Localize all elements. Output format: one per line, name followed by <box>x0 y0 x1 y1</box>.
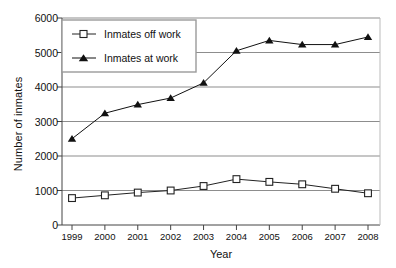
x-axis-tick-label: 2000 <box>94 231 115 242</box>
x-axis-tick-label: 2002 <box>160 231 181 242</box>
data-point <box>232 47 240 54</box>
x-axis-tick-label: 2006 <box>292 231 313 242</box>
x-axis-tick-label: 2007 <box>325 231 346 242</box>
x-axis-ticks <box>72 225 368 230</box>
y-axis-tick-label: 3000 <box>24 116 58 128</box>
y-axis-tick-label: 1000 <box>24 185 58 197</box>
data-point <box>266 178 273 185</box>
x-axis-tick-label: 2004 <box>226 231 247 242</box>
y-axis-tick-label: 0 <box>24 219 58 231</box>
data-point <box>365 190 372 197</box>
x-axis-tick-label: 2005 <box>259 231 280 242</box>
y-axis-label: Number of inmates <box>12 54 24 194</box>
x-axis-tick-label: 2001 <box>127 231 148 242</box>
y-axis-tick-label: 4000 <box>24 81 58 93</box>
data-point <box>265 37 273 44</box>
data-point <box>101 192 108 199</box>
chart-canvas: Inmates off work Inmates at work <box>0 0 396 268</box>
legend-label-0: Inmates off work <box>104 28 182 40</box>
y-axis-tick-label: 2000 <box>24 150 58 162</box>
y-axis-tick-label: 6000 <box>24 12 58 24</box>
data-point <box>69 195 76 202</box>
legend-label-1: Inmates at work <box>104 52 179 64</box>
y-axis-tick-label: 5000 <box>24 47 58 59</box>
x-axis-tick-label: 2008 <box>357 231 378 242</box>
data-point <box>233 176 240 183</box>
data-point <box>134 189 141 196</box>
data-point <box>200 183 207 190</box>
y-axis-tick-labels: 0100020003000400050006000 <box>18 0 58 268</box>
x-axis-tick-label: 2003 <box>193 231 214 242</box>
data-point <box>332 185 339 192</box>
data-point <box>299 181 306 188</box>
x-axis-tick-label: 1999 <box>61 231 82 242</box>
data-point <box>364 33 372 40</box>
line-chart: 0100020003000400050006000 Number of inma… <box>0 0 396 268</box>
series-inmates-off-work <box>69 176 372 202</box>
data-point <box>166 94 174 101</box>
data-point <box>167 187 174 194</box>
x-axis-label: Year <box>62 248 380 260</box>
legend: Inmates off work Inmates at work <box>62 20 196 72</box>
